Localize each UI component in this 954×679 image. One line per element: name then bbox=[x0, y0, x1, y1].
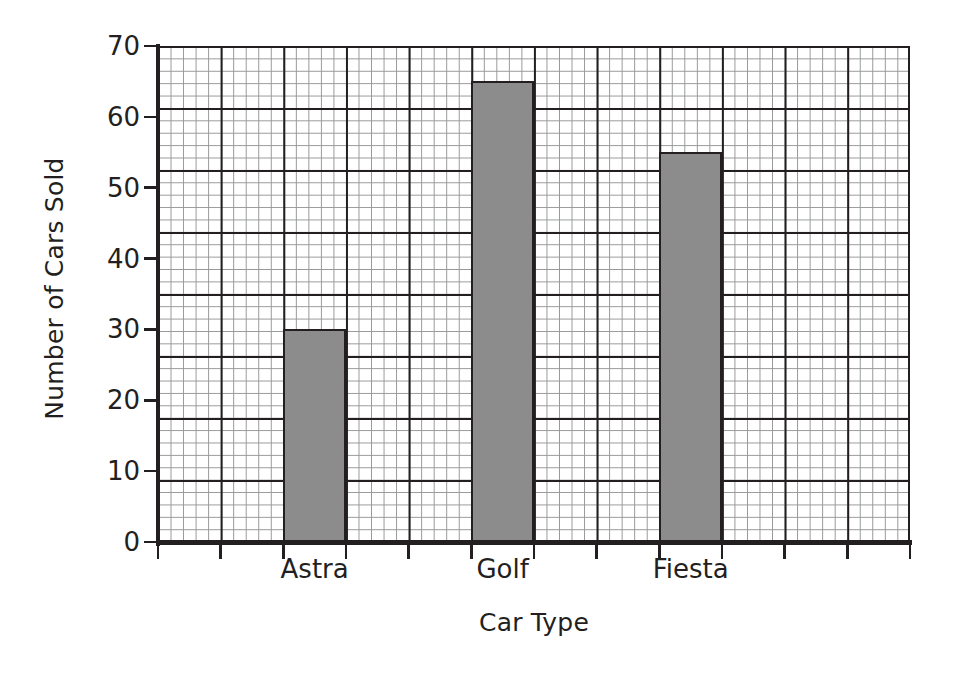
x-axis-title: Car Type bbox=[158, 608, 910, 637]
x-tick-11 bbox=[846, 544, 849, 559]
bar-astra bbox=[283, 329, 346, 542]
y-tick-30 bbox=[144, 328, 160, 331]
y-tick-label-60: 60 bbox=[80, 104, 140, 130]
x-tick-12 bbox=[909, 544, 912, 559]
x-tick-label-fiesta: Fiesta bbox=[591, 556, 791, 582]
bars-layer bbox=[158, 46, 910, 542]
y-tick-0 bbox=[144, 541, 160, 544]
y-tick-label-0: 0 bbox=[80, 529, 140, 555]
x-tick-label-golf: Golf bbox=[403, 556, 603, 582]
y-tick-10 bbox=[144, 470, 160, 473]
bar-fiesta bbox=[659, 152, 722, 542]
y-tick-label-20: 20 bbox=[80, 387, 140, 413]
y-tick-label-50: 50 bbox=[80, 175, 140, 201]
y-tick-70 bbox=[144, 45, 160, 48]
y-tick-20 bbox=[144, 399, 160, 402]
bar-golf bbox=[471, 81, 534, 542]
y-tick-label-10: 10 bbox=[80, 458, 140, 484]
y-tick-40 bbox=[144, 257, 160, 260]
y-tick-label-40: 40 bbox=[80, 246, 140, 272]
plot-area bbox=[158, 46, 910, 542]
bar-chart: Number of Cars Sold 010203040506070 Astr… bbox=[0, 0, 954, 679]
x-tick-0 bbox=[157, 544, 160, 559]
y-tick-60 bbox=[144, 116, 160, 119]
y-axis-title: Number of Cars Sold bbox=[40, 119, 69, 459]
x-tick-label-astra: Astra bbox=[215, 556, 415, 582]
y-axis-tick-labels: 010203040506070 bbox=[78, 0, 140, 679]
y-tick-label-70: 70 bbox=[80, 33, 140, 59]
y-tick-50 bbox=[144, 186, 160, 189]
y-tick-label-30: 30 bbox=[80, 316, 140, 342]
